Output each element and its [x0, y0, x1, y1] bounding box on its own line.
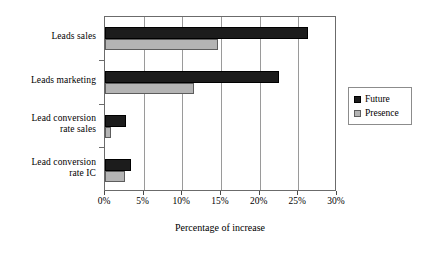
x-tick-mark — [181, 191, 182, 195]
category-label-0: Leads sales — [0, 31, 96, 42]
x-tick-label: 20% — [242, 196, 276, 207]
category-label-2: Lead conversionrate sales — [0, 113, 96, 135]
x-tick-label: 25% — [280, 196, 314, 207]
x-tick-label: 15% — [203, 196, 237, 207]
gray-square-icon — [354, 110, 361, 117]
legend-label-future: Future — [365, 94, 390, 105]
category-label-3: Lead conversionrate IC — [0, 157, 96, 179]
x-tick-label: 0% — [87, 196, 121, 207]
category-label-line: Leads marketing — [0, 75, 96, 86]
plot-area — [104, 16, 336, 191]
bar-presence-3[interactable] — [105, 171, 125, 182]
bar-future-0[interactable] — [105, 27, 308, 39]
bar-future-3[interactable] — [105, 159, 131, 171]
x-axis-title: Percentage of increase — [104, 222, 336, 234]
category-label-1: Leads marketing — [0, 75, 96, 86]
legend-item-future[interactable]: Future — [354, 92, 407, 106]
bar-future-2[interactable] — [105, 115, 126, 127]
category-label-line: rate sales — [0, 124, 96, 135]
x-tick-mark — [220, 191, 221, 195]
legend-item-presence[interactable]: Presence — [354, 106, 407, 120]
x-tick-mark — [259, 191, 260, 195]
gridline-25 — [298, 17, 299, 190]
y-tick-mark — [99, 60, 104, 61]
x-tick-label: 30% — [319, 196, 353, 207]
y-tick-mark — [99, 104, 104, 105]
x-tick-mark — [143, 191, 144, 195]
legend-label-presence: Presence — [365, 108, 399, 119]
bar-chart: Leads salesLeads marketingLead conversio… — [0, 0, 426, 255]
bar-future-1[interactable] — [105, 71, 279, 83]
bar-presence-1[interactable] — [105, 83, 194, 94]
x-tick-mark — [104, 191, 105, 195]
gridline-15 — [221, 17, 222, 190]
bar-presence-2[interactable] — [105, 127, 111, 138]
category-label-line: Lead conversion — [0, 157, 96, 168]
category-label-line: Lead conversion — [0, 113, 96, 124]
x-tick-mark — [336, 191, 337, 195]
chart-legend: Future Presence — [348, 87, 412, 125]
category-label-line: Leads sales — [0, 31, 96, 42]
bar-presence-0[interactable] — [105, 39, 218, 50]
gridline-20 — [260, 17, 261, 190]
category-label-line: rate IC — [0, 168, 96, 179]
black-square-icon — [354, 96, 361, 103]
x-tick-label: 10% — [164, 196, 198, 207]
x-tick-mark — [297, 191, 298, 195]
y-tick-mark — [99, 147, 104, 148]
x-tick-label: 5% — [126, 196, 160, 207]
